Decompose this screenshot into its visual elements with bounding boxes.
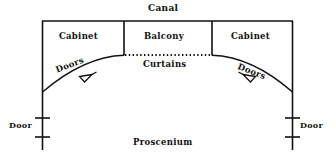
label-door-left: Door — [9, 121, 32, 129]
label-balcony: Balcony — [144, 32, 184, 41]
arrow-tail-left — [92, 72, 97, 75]
label-door-right: Door — [300, 121, 323, 129]
label-cabinet-right: Cabinet — [231, 32, 270, 41]
label-canal: Canal — [148, 4, 178, 13]
label-cabinet-left: Cabinet — [59, 32, 98, 41]
theatre-plan-diagram: Canal Cabinet Balcony Cabinet Curtains D… — [0, 0, 336, 160]
label-curtains: Curtains — [143, 60, 186, 69]
label-proscenium: Proscenium — [133, 138, 193, 147]
arrow-wedge-left-icon — [80, 75, 93, 83]
plan-drawing — [0, 0, 336, 160]
